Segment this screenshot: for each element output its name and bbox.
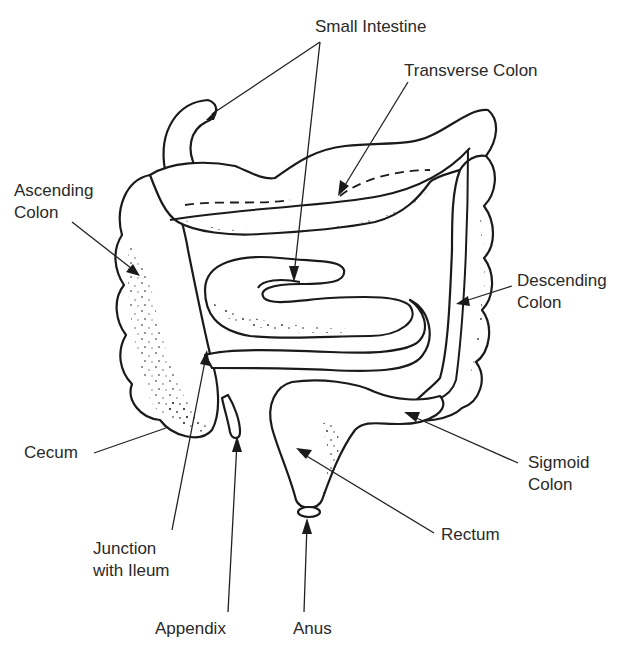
label-junction-with-ileum: Junction with Ileum bbox=[93, 538, 170, 582]
small-intestine-coils bbox=[205, 257, 430, 371]
label-sigmoid-colon: Sigmoid Colon bbox=[528, 452, 589, 496]
label-transverse-colon: Transverse Colon bbox=[404, 60, 538, 82]
label-cecum: Cecum bbox=[24, 442, 78, 464]
label-anus: Anus bbox=[293, 618, 332, 640]
label-appendix: Appendix bbox=[155, 618, 226, 640]
rectum bbox=[270, 380, 443, 517]
transverse-colon bbox=[150, 110, 496, 235]
label-ascending-colon: Ascending Colon bbox=[14, 180, 93, 224]
anus-opening bbox=[298, 507, 320, 517]
label-descending-colon: Descending Colon bbox=[517, 270, 607, 314]
label-small-intestine: Small Intestine bbox=[315, 16, 427, 38]
appendix bbox=[222, 395, 240, 438]
label-rectum: Rectum bbox=[441, 524, 500, 546]
small-intestine-upper-loop bbox=[164, 100, 216, 170]
